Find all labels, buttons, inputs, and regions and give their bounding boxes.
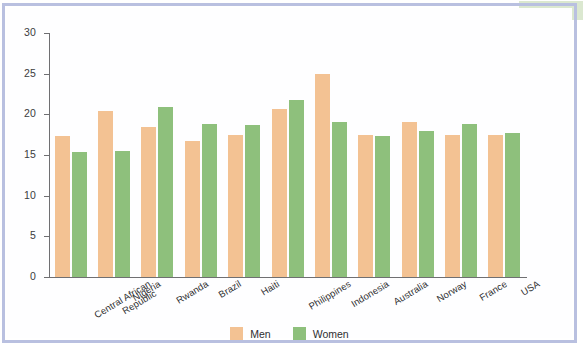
bar-men[interactable] bbox=[358, 135, 373, 277]
bar-group bbox=[488, 33, 520, 277]
x-axis-label: USA bbox=[519, 278, 542, 298]
bar-men[interactable] bbox=[185, 141, 200, 277]
plot-area: 051015202530 bbox=[49, 33, 526, 277]
x-axis-label: Haiti bbox=[259, 278, 281, 297]
x-axis-label: Philippines bbox=[306, 278, 352, 312]
bar-men[interactable] bbox=[55, 136, 70, 277]
legend-item-women[interactable]: Women bbox=[293, 327, 349, 340]
legend-swatch-men bbox=[230, 327, 243, 340]
x-axis-label: Brazil bbox=[216, 278, 243, 300]
bar-women[interactable] bbox=[115, 151, 130, 277]
bar-women[interactable] bbox=[419, 131, 434, 277]
chart-screenshot: 051015202530 Central AfricanRepublicNige… bbox=[0, 0, 583, 350]
bar-men[interactable] bbox=[98, 111, 113, 277]
bar-men[interactable] bbox=[488, 135, 503, 277]
bar-men[interactable] bbox=[445, 135, 460, 277]
bar-men[interactable] bbox=[315, 74, 330, 277]
bar-women[interactable] bbox=[72, 152, 87, 277]
y-tick-label: 0 bbox=[30, 270, 36, 282]
bar-women[interactable] bbox=[375, 136, 390, 277]
bar-group bbox=[315, 33, 347, 277]
y-tick-label: 10 bbox=[24, 189, 36, 201]
bar-group bbox=[402, 33, 434, 277]
bar-group bbox=[228, 33, 260, 277]
bar-women[interactable] bbox=[245, 125, 260, 277]
bar-group bbox=[98, 33, 130, 277]
bar-women[interactable] bbox=[505, 133, 520, 277]
bar-group bbox=[358, 33, 390, 277]
legend-item-men[interactable]: Men bbox=[230, 327, 270, 340]
bar-group bbox=[445, 33, 477, 277]
chart-inner-panel: 051015202530 Central AfricanRepublicNige… bbox=[7, 8, 572, 338]
bar-women[interactable] bbox=[202, 124, 217, 277]
legend-label: Men bbox=[250, 328, 270, 340]
x-axis-label: France bbox=[477, 278, 509, 303]
bar-group bbox=[141, 33, 173, 277]
y-tick-label: 25 bbox=[24, 67, 36, 79]
bar-men[interactable] bbox=[228, 135, 243, 277]
bar-group bbox=[55, 33, 87, 277]
bar-men[interactable] bbox=[402, 122, 417, 277]
bar-group bbox=[272, 33, 304, 277]
y-tick-label: 5 bbox=[30, 229, 36, 241]
x-axis-label: Indonesia bbox=[349, 278, 391, 309]
bar-men[interactable] bbox=[141, 127, 156, 277]
bar-series-container bbox=[49, 33, 526, 277]
bar-women[interactable] bbox=[289, 100, 304, 277]
legend-label: Women bbox=[313, 328, 349, 340]
x-axis-label: Australia bbox=[392, 278, 430, 307]
bar-women[interactable] bbox=[462, 124, 477, 277]
y-tick-label: 20 bbox=[24, 107, 36, 119]
x-axis-label: Rwanda bbox=[174, 278, 210, 306]
x-axis-labels: Central AfricanRepublicNigeriaRwandaBraz… bbox=[49, 278, 526, 323]
bar-group bbox=[185, 33, 217, 277]
bar-women[interactable] bbox=[158, 107, 173, 277]
bar-men[interactable] bbox=[272, 109, 287, 277]
y-tick-label: 15 bbox=[24, 148, 36, 160]
bar-women[interactable] bbox=[332, 122, 347, 277]
legend-swatch-women bbox=[293, 327, 306, 340]
x-axis-label: Norway bbox=[434, 278, 468, 304]
chart-legend: MenWomen bbox=[7, 327, 572, 340]
y-tick-label: 30 bbox=[24, 26, 36, 38]
